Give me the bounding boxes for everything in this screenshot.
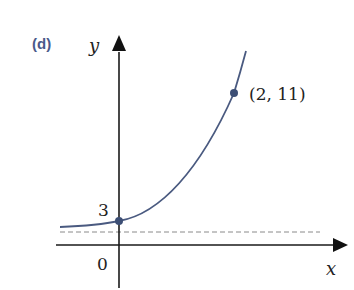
- x-axis-arrow-icon: [333, 238, 348, 252]
- y-intercept-label: 3: [98, 200, 109, 220]
- origin-label: 0: [97, 254, 108, 274]
- graph: (d) y x 0 3 (2, 11): [0, 0, 354, 290]
- x-axis-label: x: [326, 258, 336, 279]
- y-axis-label: y: [88, 35, 100, 56]
- y-intercept-point: [115, 217, 123, 225]
- exponential-curve: [60, 51, 246, 227]
- point-label: (2, 11): [249, 84, 306, 104]
- y-axis-arrow-icon: [112, 35, 126, 51]
- point-2-11: [230, 89, 238, 97]
- part-label: (d): [32, 35, 51, 52]
